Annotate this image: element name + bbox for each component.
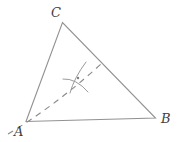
vertex-label-c: C bbox=[51, 6, 61, 19]
triangle-construction-diagram bbox=[0, 0, 177, 142]
vertex-label-b: B bbox=[161, 112, 171, 125]
arc-intersection-point bbox=[77, 77, 79, 79]
vertex-label-a: A bbox=[14, 125, 23, 138]
triangle-outline bbox=[26, 23, 156, 122]
geometry-figure-canvas: C A B bbox=[0, 0, 177, 142]
compass-arc-mark-2 bbox=[63, 79, 88, 92]
